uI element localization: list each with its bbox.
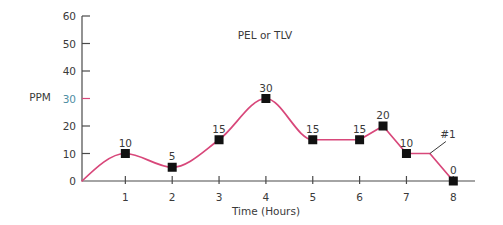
callout-label: #1 — [440, 128, 455, 140]
data-point-label: 10 — [400, 137, 413, 149]
data-point-label: 20 — [376, 109, 389, 121]
callout-leader-line — [430, 142, 446, 154]
y-tick-label: 40 — [63, 65, 76, 77]
x-tick-label: 6 — [356, 191, 363, 203]
data-point-label: 15 — [306, 123, 319, 135]
data-point-marker — [402, 149, 411, 158]
y-tick-label: 10 — [63, 148, 76, 160]
x-tick-label: 1 — [122, 191, 129, 203]
data-point-label: 15 — [212, 123, 225, 135]
data-point-label: 15 — [353, 123, 366, 135]
y-axis-title: PPM — [29, 91, 51, 103]
data-point-marker — [168, 163, 177, 172]
data-point-label: 0 — [450, 164, 457, 176]
y-axis: 0102030405060 — [63, 10, 90, 187]
data-point-marker — [261, 94, 270, 103]
y-tick-label: 60 — [63, 10, 76, 22]
data-point-marker — [121, 149, 130, 158]
pel-tlv-annotation: PEL or TLV — [238, 29, 293, 41]
x-axis-title: Time (Hours) — [231, 205, 300, 217]
data-point-marker — [379, 122, 388, 131]
y-ticks: 0102030405060 — [63, 10, 90, 187]
x-tick-label: 3 — [216, 191, 223, 203]
exposure-line-chart: 0102030405060 12345678 PPM Time (Hours) … — [0, 0, 503, 225]
x-ticks: 12345678 — [122, 176, 457, 203]
data-point-marker — [308, 135, 317, 144]
x-tick-label: 4 — [263, 191, 270, 203]
y-tick-label: 30 — [63, 93, 76, 105]
y-tick-label: 50 — [63, 38, 76, 50]
x-tick-label: 5 — [309, 191, 316, 203]
data-point-marker — [355, 135, 364, 144]
exposure-series-line — [82, 99, 453, 182]
x-axis: 12345678 — [82, 176, 475, 203]
y-tick-label: 20 — [63, 120, 76, 132]
y-tick-label: 0 — [69, 175, 76, 187]
data-point-label: 10 — [119, 137, 132, 149]
data-point-labels: 1051530151520100 — [119, 82, 457, 177]
x-tick-label: 8 — [450, 191, 457, 203]
x-tick-label: 7 — [403, 191, 410, 203]
data-point-label: 5 — [169, 150, 176, 162]
data-point-marker — [215, 135, 224, 144]
x-tick-label: 2 — [169, 191, 176, 203]
data-point-marker — [449, 177, 458, 186]
data-point-label: 30 — [259, 82, 272, 94]
